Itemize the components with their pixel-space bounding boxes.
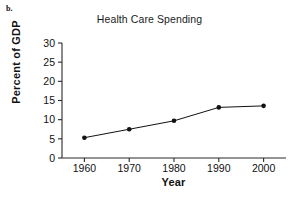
data-point-marker bbox=[261, 104, 266, 109]
figure-panel: b. Health Care Spending Percent of GDP Y… bbox=[0, 0, 299, 204]
y-tick-label: 0 bbox=[49, 152, 55, 164]
y-tick-label: 25 bbox=[43, 56, 55, 68]
x-tick-label: 1980 bbox=[162, 162, 186, 174]
y-tick-label: 10 bbox=[43, 113, 55, 125]
data-series-health-care-spending bbox=[82, 104, 266, 140]
data-point-marker bbox=[127, 127, 132, 132]
y-tick-label: 30 bbox=[43, 37, 55, 49]
data-point-marker bbox=[217, 105, 222, 110]
y-tick-label: 5 bbox=[49, 133, 55, 145]
series-markers bbox=[82, 104, 266, 140]
x-tick-label: 1960 bbox=[73, 162, 97, 174]
x-tick-label: 1970 bbox=[118, 162, 142, 174]
y-tick-label: 15 bbox=[43, 94, 55, 106]
x-tick-label: 1990 bbox=[207, 162, 231, 174]
data-point-marker bbox=[82, 135, 87, 140]
data-point-marker bbox=[172, 119, 177, 124]
x-tick-group: 19601970198019902000 bbox=[73, 158, 276, 174]
chart-axes bbox=[62, 43, 286, 158]
line-chart-plot: 051015202530 19601970198019902000 bbox=[0, 0, 299, 204]
x-tick-label: 2000 bbox=[252, 162, 276, 174]
y-tick-label: 20 bbox=[43, 75, 55, 87]
y-tick-group: 051015202530 bbox=[43, 37, 62, 164]
